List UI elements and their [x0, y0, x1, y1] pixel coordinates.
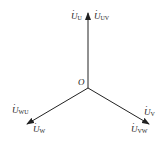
origin-label: O [78, 77, 85, 87]
label-u-w: UW [33, 125, 45, 134]
label-u-uv: UUV [94, 12, 109, 21]
label-base: U [94, 11, 101, 21]
label-u-v: UV [144, 108, 155, 117]
label-base: U [131, 124, 138, 134]
label-subscript: U [78, 15, 82, 21]
label-base: U [71, 11, 78, 21]
label-subscript: W [40, 128, 46, 134]
label-base: U [33, 124, 40, 134]
label-base: U [144, 107, 151, 117]
label-subscript: UV [101, 15, 110, 21]
label-subscript: VW [138, 128, 148, 134]
label-subscript: WU [19, 109, 29, 115]
label-u-u: UU [71, 12, 82, 21]
label-u-wu: UWU [12, 106, 29, 115]
label-u-vw: UVW [131, 125, 148, 134]
label-base: U [12, 105, 19, 115]
label-subscript: V [151, 111, 155, 117]
phasor-arrow-down-right [88, 88, 149, 124]
